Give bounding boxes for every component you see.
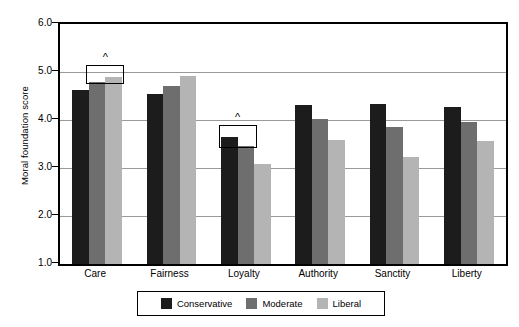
y-axis-tick-labels: 6.05.04.03.02.01.0	[12, 22, 52, 262]
annotation-caret-loyalty: ^	[219, 112, 257, 123]
plot-area: ^^	[58, 22, 508, 266]
y-axis-tick-label: 3.0	[18, 161, 52, 172]
legend-label: Conservative	[177, 298, 232, 309]
bar-group	[357, 24, 431, 264]
legend-entry-moderate[interactable]: Moderate	[246, 298, 302, 309]
bar-fairness-liberal	[180, 76, 197, 264]
x-axis-label-care: Care	[58, 268, 132, 279]
plot-inner: ^^	[60, 24, 506, 264]
x-axis-label-loyalty: Loyalty	[207, 268, 281, 279]
y-axis-tick-label: 5.0	[18, 65, 52, 76]
bar-fairness-conservative	[147, 94, 164, 264]
x-axis-label-liberty: Liberty	[430, 268, 504, 279]
bar-group	[134, 24, 208, 264]
bar-authority-conservative	[295, 105, 312, 264]
legend-label: Liberal	[333, 298, 362, 309]
annotation-box-loyalty	[219, 125, 257, 149]
x-axis-tick-labels: CareFairnessLoyaltyAuthoritySanctityLibe…	[58, 268, 508, 284]
bar-care-liberal	[105, 77, 122, 264]
chart-legend: ConservativeModerateLiberal	[137, 291, 385, 316]
legend-swatch-icon	[246, 298, 257, 309]
legend-label: Moderate	[262, 298, 302, 309]
annotation-box-care	[86, 65, 124, 84]
legend-swatch-icon	[317, 298, 328, 309]
moral-foundations-bar-chart: Moral foundation score 6.05.04.03.02.01.…	[0, 0, 519, 327]
bar-fairness-moderate	[163, 86, 180, 264]
y-axis-tick-label: 6.0	[18, 17, 52, 28]
y-axis-tick-label: 4.0	[18, 113, 52, 124]
x-axis-label-authority: Authority	[281, 268, 355, 279]
legend-swatch-icon	[161, 298, 172, 309]
legend-entry-conservative[interactable]: Conservative	[161, 298, 232, 309]
legend-entry-liberal[interactable]: Liberal	[317, 298, 362, 309]
bar-sanctity-conservative	[370, 104, 387, 264]
y-axis-tick-label: 1.0	[18, 257, 52, 268]
bar-group	[283, 24, 357, 264]
bar-liberty-moderate	[461, 122, 478, 264]
annotation-caret-care: ^	[86, 52, 124, 63]
bar-authority-moderate	[312, 119, 329, 264]
bar-loyalty-moderate	[238, 146, 255, 264]
bar-sanctity-liberal	[403, 157, 420, 264]
bar-sanctity-moderate	[386, 127, 403, 264]
bar-authority-liberal	[328, 140, 345, 264]
bar-liberty-conservative	[444, 107, 461, 264]
bar-loyalty-conservative	[221, 137, 238, 264]
x-axis-label-sanctity: Sanctity	[355, 268, 429, 279]
bar-care-moderate	[89, 82, 106, 264]
bar-group	[432, 24, 506, 264]
y-axis-tick-label: 2.0	[18, 209, 52, 220]
bar-liberty-liberal	[477, 141, 494, 264]
bar-care-conservative	[72, 90, 89, 264]
x-axis-label-fairness: Fairness	[132, 268, 206, 279]
bar-loyalty-liberal	[254, 164, 271, 264]
